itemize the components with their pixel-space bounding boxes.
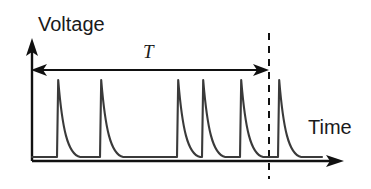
voltage-spike-train — [32, 80, 322, 157]
period-arrow — [31, 64, 269, 76]
y-axis-label: Voltage — [38, 13, 105, 35]
waveform-diagram: Voltage Time T — [0, 0, 371, 189]
y-axis — [26, 38, 38, 161]
period-label: T — [143, 41, 155, 62]
voltage-waveform-figure: Voltage Time T — [0, 0, 371, 189]
x-axis-label: Time — [308, 116, 352, 138]
